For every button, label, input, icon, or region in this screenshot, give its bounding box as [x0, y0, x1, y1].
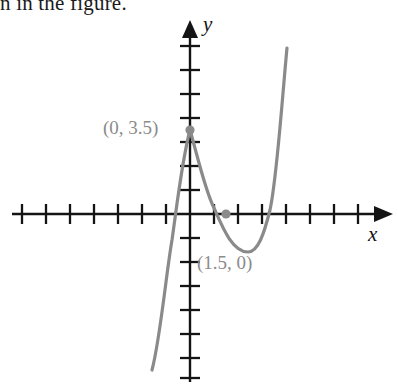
x-axis-label: x [368, 222, 377, 247]
y-intercept-label: (0, 3.5) [103, 117, 158, 139]
point-marker-x-intercept [221, 209, 230, 218]
x-intercept-label: (1.5, 0) [197, 252, 252, 274]
x-axis [12, 204, 393, 224]
y-axis [180, 20, 200, 382]
y-axis-arrowhead [182, 20, 198, 38]
figure-page: n in the figure. [0, 0, 398, 386]
x-axis-arrowhead [374, 206, 393, 222]
y-axis-label: y [203, 12, 212, 37]
point-marker-y-intercept [185, 125, 194, 134]
graph-figure [0, 0, 398, 386]
cubic-curve [152, 48, 287, 370]
